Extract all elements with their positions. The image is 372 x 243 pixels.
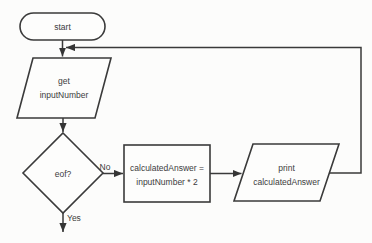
print-label-line1: print bbox=[278, 163, 295, 173]
get-input-label-line1: get bbox=[58, 76, 70, 86]
get-input-parallelogram-shape bbox=[17, 58, 111, 118]
eof-decision-label: eof? bbox=[55, 169, 72, 179]
calculate-label-line2: inputNumber * 2 bbox=[136, 177, 198, 187]
flowchart-canvas: start get inputNumber eof? calculatedAns… bbox=[0, 0, 372, 243]
branch-label-yes: Yes bbox=[67, 213, 81, 223]
start-label: start bbox=[54, 22, 71, 32]
flowchart-svg: start get inputNumber eof? calculatedAns… bbox=[0, 0, 372, 243]
print-label-line2: calculatedAnswer bbox=[253, 177, 320, 187]
get-input-label-line2: inputNumber bbox=[40, 90, 89, 100]
calculate-process-rectangle-shape bbox=[124, 145, 210, 202]
branch-label-no: No bbox=[100, 162, 111, 172]
calculate-label-line1: calculatedAnswer = bbox=[130, 163, 204, 173]
